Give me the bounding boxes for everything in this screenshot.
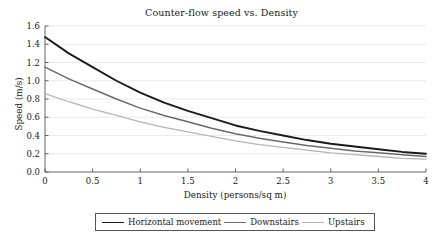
chart-figure: Counter-flow speed vs. Density 0.00.20.4… (0, 0, 443, 239)
legend-item[interactable]: Downstairs (224, 217, 302, 227)
legend-item[interactable]: Upstairs (302, 217, 368, 227)
legend-line-icon (102, 222, 124, 223)
y-tick-label: 0.0 (4, 167, 40, 177)
x-tick-label: 0 (42, 176, 47, 186)
x-tick-label: 1 (138, 176, 143, 186)
legend-item-label: Upstairs (328, 217, 365, 227)
series-lines-group (45, 37, 426, 159)
x-tick-label: 4 (423, 176, 428, 186)
legend-item-label: Downstairs (250, 217, 299, 227)
x-tick-label: 0.5 (86, 176, 100, 186)
y-tick-label: 1.6 (4, 21, 40, 31)
x-tick-label: 1.5 (181, 176, 195, 186)
x-tick-label: 3 (328, 176, 333, 186)
chart-legend: Horizontal movementDownstairsUpstairs (95, 213, 375, 231)
legend-item-label: Horizontal movement (128, 217, 221, 227)
gridlines-group (45, 26, 426, 154)
legend-line-icon (302, 222, 324, 223)
x-tick-label: 2 (233, 176, 238, 186)
legend-item[interactable]: Horizontal movement (102, 217, 224, 227)
legend-line-icon (224, 222, 246, 223)
series-line-0 (45, 37, 426, 154)
x-tick-label: 2.5 (276, 176, 290, 186)
plot-area (0, 0, 443, 239)
x-axis-title: Density (persons/sq m) (44, 190, 426, 200)
x-tick-label: 3.5 (372, 176, 386, 186)
y-axis-title: Speed (m/s) (14, 54, 24, 154)
y-tick-label: 1.4 (4, 39, 40, 49)
